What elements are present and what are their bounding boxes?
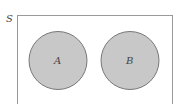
venn-diagram: S A B: [0, 0, 176, 104]
set-b-label: B: [125, 55, 133, 66]
universe-label: S: [6, 13, 13, 24]
set-a-label: A: [53, 55, 61, 66]
